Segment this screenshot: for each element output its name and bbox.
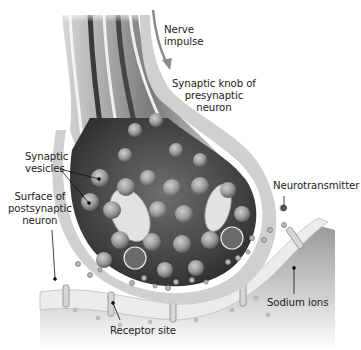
synaptic-knob-line-1: Synaptic knob of — [172, 78, 256, 90]
nerve-impulse-line-2: impulse — [164, 36, 203, 48]
synaptic-knob-label: Synaptic knob of presynaptic neuron — [172, 78, 256, 114]
nerve-impulse-label: Nerve impulse — [164, 24, 203, 48]
synaptic-vesicles-line-2: vesicles — [25, 163, 68, 175]
synaptic-knob-line-3: neuron — [172, 102, 256, 114]
synaptic-vesicles-label: Synaptic vesicles — [25, 151, 68, 175]
receptor-site-label: Receptor site — [110, 325, 176, 337]
synapse-diagram: Nerve impulse Synaptic knob of presynapt… — [0, 0, 361, 350]
postsynaptic-line-3: neuron — [8, 215, 72, 227]
postsynaptic-surface-label: Surface of postsynaptic neuron — [8, 191, 72, 227]
postsynaptic-line-1: Surface of — [8, 191, 72, 203]
synaptic-vesicles-line-1: Synaptic — [25, 151, 68, 163]
sodium-ions-label: Sodium ions — [267, 297, 328, 309]
synaptic-knob-line-2: presynaptic — [172, 90, 256, 102]
neurotransmitter-label: Neurotransmitter — [273, 180, 359, 192]
nerve-impulse-line-1: Nerve — [164, 24, 203, 36]
postsynaptic-line-2: postsynaptic — [8, 203, 72, 215]
